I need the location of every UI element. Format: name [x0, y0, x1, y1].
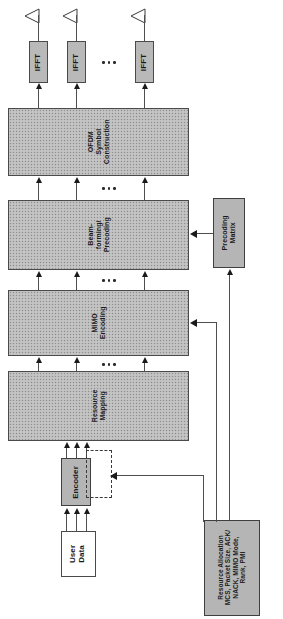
encoder-label: Encoder [72, 466, 81, 499]
precoding-matrix-label: Precoding Matrix [221, 215, 237, 250]
user-data-label: User Data [70, 545, 88, 563]
arrow-mimo-to-beamforming-2 [76, 276, 77, 290]
arrow-precoding-to-beamforming [196, 233, 213, 234]
stage-beamforming-label: Beam- forming/ Precoding [87, 217, 110, 252]
control-info-label-line4: Rank, PMI [239, 530, 246, 605]
antenna-1-feed-h [38, 15, 39, 16]
arrow-userdata-to-encoder-1 [66, 513, 67, 531]
precoding-matrix-block[interactable]: Precoding Matrix [213, 198, 245, 268]
stage-beamforming-precoding[interactable]: Beam- forming/ Precoding [8, 200, 189, 270]
arrow-beamforming-to-ofdm-n [144, 182, 145, 200]
antenna-1-icon [24, 8, 50, 24]
stage-beamforming-label-line2: forming/ [95, 217, 103, 252]
arrow-mimo-to-beamforming-1 [38, 276, 39, 290]
ifft-block-1[interactable]: IFFT [29, 41, 48, 83]
ellipsis-ifft [102, 61, 116, 64]
arrow-mimo-to-beamforming-n [144, 276, 145, 290]
control-info-block[interactable]: Resource Allocation MCS, Packet Size, AC… [204, 520, 260, 616]
arrow-ofdm-to-ifft-2 [76, 88, 77, 108]
precoding-matrix-label-line2: Matrix [229, 215, 237, 250]
ifft-block-1-label: IFFT [34, 53, 43, 70]
stage-ofdm-label: OFDM Symbol Construction [87, 120, 110, 165]
arrow-control-to-encoder [116, 475, 204, 476]
diagram-canvas: IFFT IFFT IFFT OFDM Symbol Construction … [0, 0, 283, 619]
ellipsis-mimo-beamforming [102, 279, 116, 282]
stage-mimo-label: MIMO Encoding [91, 307, 107, 340]
antenna-2-icon [62, 8, 88, 24]
ifft-block-2-label: IFFT [72, 53, 81, 70]
encoder-feedback-dashed-loop [86, 450, 112, 498]
antenna-2-feed [76, 15, 77, 41]
stage-ofdm-label-line3: Construction [102, 120, 110, 165]
arrow-ofdm-to-ifft-n [144, 88, 145, 108]
arrow-control-to-precoding [229, 274, 230, 520]
arrow-encoder-to-resource-2 [76, 447, 77, 458]
antenna-n-icon [130, 8, 156, 24]
stage-beamforming-label-line1: Beam- [87, 217, 95, 252]
arrow-control-to-mimo [196, 322, 217, 323]
stage-resource-label-line1: Resource [91, 390, 99, 423]
stage-ofdm-symbol-construction[interactable]: OFDM Symbol Construction [8, 108, 189, 176]
stage-beamforming-label-line3: Precoding [102, 217, 110, 252]
ifft-block-n-label: IFFT [140, 53, 149, 70]
arrow-userdata-to-encoder-3 [86, 513, 87, 531]
arrow-beamforming-to-ofdm-1 [38, 182, 39, 200]
stage-mimo-encoding[interactable]: MIMO Encoding [8, 290, 189, 356]
user-data-block[interactable]: User Data [61, 531, 96, 577]
arrow-encoder-to-resource-1 [66, 447, 67, 458]
arrow-ofdm-to-ifft-1 [38, 88, 39, 108]
ifft-block-n[interactable]: IFFT [135, 41, 154, 83]
user-data-label-line2: Data [78, 545, 87, 563]
antenna-1-feed [38, 15, 39, 41]
stage-resource-label-line2: Mapping [99, 390, 107, 423]
control-branch-encoder-vline [203, 475, 204, 522]
stage-resource-mapping[interactable]: Resource Mapping [8, 371, 189, 441]
control-info-label: Resource Allocation MCS, Packet Size, AC… [217, 530, 246, 605]
arrow-userdata-to-encoder-2 [76, 513, 77, 531]
ellipsis-beamforming-ofdm [102, 187, 116, 190]
ifft-block-2[interactable]: IFFT [67, 41, 86, 83]
ellipsis-resource-mimo [102, 363, 116, 366]
stage-resource-label: Resource Mapping [91, 390, 107, 423]
control-branch-mimo-vline [216, 322, 217, 522]
stage-mimo-label-line1: MIMO [91, 307, 99, 340]
antenna-n-feed [144, 15, 145, 41]
control-info-label-line2: MCS, Packet Size, ACK/ [225, 530, 232, 605]
stage-mimo-label-line2: Encoding [99, 307, 107, 340]
stage-ofdm-label-line2: Symbol [95, 120, 103, 165]
stage-ofdm-label-line1: OFDM [87, 120, 95, 165]
arrow-beamforming-to-ofdm-2 [76, 182, 77, 200]
